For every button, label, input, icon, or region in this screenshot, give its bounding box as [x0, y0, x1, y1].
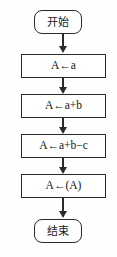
- flowchart-node-step2-label: A←a+b: [45, 100, 82, 112]
- flowchart-diagram: 开始 A←a A←a+b A←a+b−c A←(A) 结束: [0, 0, 117, 257]
- flowchart-node-end: 结束: [34, 219, 82, 243]
- flowchart-node-step2: A←a+b: [21, 94, 106, 118]
- flowchart-node-start: 开始: [34, 10, 82, 34]
- arrowhead-step1-to-step2: [59, 87, 67, 94]
- arrowhead-start-to-step1: [59, 46, 67, 53]
- flowchart-node-step1: A←a: [21, 54, 106, 78]
- arrowhead-step4-to-end: [59, 211, 67, 218]
- bottom-caption-remnant: [0, 249, 117, 257]
- arrowhead-step2-to-step3: [59, 127, 67, 134]
- arrowhead-step3-to-step4: [59, 167, 67, 174]
- flowchart-node-end-label: 结束: [47, 226, 70, 237]
- flowchart-node-step4-label: A←(A): [46, 180, 82, 192]
- flowchart-node-start-label: 开始: [47, 17, 70, 28]
- flowchart-node-step1-label: A←a: [51, 60, 76, 72]
- flowchart-node-step3: A←a+b−c: [21, 134, 106, 158]
- connector-step4-to-end: [62, 198, 64, 212]
- flowchart-node-step3-label: A←a+b−c: [39, 140, 88, 152]
- flowchart-node-step4: A←(A): [21, 174, 106, 198]
